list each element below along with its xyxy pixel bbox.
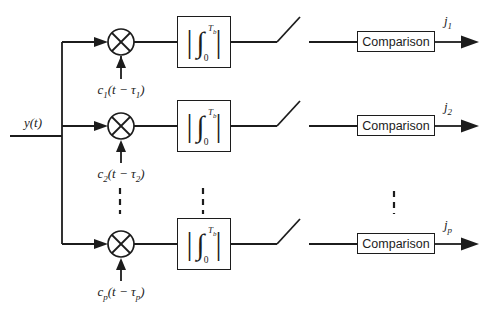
integral-lower-limit: 0: [204, 53, 209, 63]
integral-lower-limit: 0: [204, 255, 209, 265]
abs-bar-right: |: [215, 26, 221, 58]
output-label: j1: [430, 13, 466, 29]
comparison-block: Comparison: [357, 233, 435, 254]
output-arrowhead: [461, 238, 479, 251]
multiplier-icon: [108, 231, 134, 257]
abs-integral-expression: | ∫ Tb 0 |: [187, 110, 222, 143]
carrier-up-arrowhead: [116, 258, 126, 270]
block-diagram: y(t) | ∫ Tb 0 | Comparison c1(t − τ1) j1…: [0, 0, 491, 312]
integral-group: ∫ Tb 0: [195, 110, 214, 143]
mixer-input-arrowhead: [94, 121, 108, 131]
carrier-up-arrowhead: [116, 56, 126, 68]
abs-bar-right: |: [215, 110, 221, 142]
multiplier-icon: [108, 113, 134, 139]
sampler-switch-line: [277, 219, 300, 244]
integrator-block: | ∫ Tb 0 |: [177, 100, 231, 152]
integral-lower-limit: 0: [204, 137, 209, 147]
carrier-label: c1(t − τ1): [71, 82, 171, 98]
abs-integral-expression: | ∫ Tb 0 |: [187, 26, 222, 59]
ellipsis-dots-group: [120, 188, 394, 214]
sampler-switch-line: [277, 17, 300, 42]
mixer-input-arrowhead: [94, 37, 108, 47]
comparison-block: Comparison: [357, 31, 435, 52]
comparison-block: Comparison: [357, 115, 435, 136]
abs-bar-left: |: [187, 110, 193, 142]
mixer-input-arrowhead: [94, 239, 108, 249]
abs-bar-right: |: [215, 228, 221, 260]
comparison-label: Comparison: [362, 119, 429, 133]
output-label: j2: [430, 99, 466, 115]
output-label: jp: [430, 217, 466, 233]
multiplier-icon: [108, 29, 134, 55]
input-signal-label: y(t): [24, 115, 42, 131]
abs-bar-left: |: [187, 228, 193, 260]
carrier-label: c2(t − τ2): [71, 166, 171, 182]
abs-bar-left: |: [187, 26, 193, 58]
output-arrowhead: [461, 120, 479, 133]
output-arrowhead: [461, 36, 479, 49]
comparison-label: Comparison: [362, 35, 429, 49]
integral-group: ∫ Tb 0: [195, 26, 214, 59]
carrier-up-arrowhead: [116, 140, 126, 152]
integrator-block: | ∫ Tb 0 |: [177, 16, 231, 68]
carrier-label: cp(t − τp): [71, 284, 171, 300]
integrator-block: | ∫ Tb 0 |: [177, 218, 231, 270]
sampler-switch-line: [277, 101, 300, 126]
integral-group: ∫ Tb 0: [195, 228, 214, 261]
comparison-label: Comparison: [362, 237, 429, 251]
abs-integral-expression: | ∫ Tb 0 |: [187, 228, 222, 261]
